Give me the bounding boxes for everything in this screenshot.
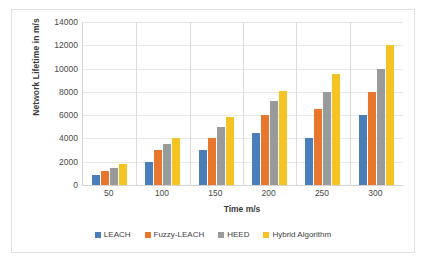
legend-label: Hybrid Algorithm — [272, 230, 331, 239]
bar-heed[interactable] — [323, 92, 331, 185]
bar-leach[interactable] — [92, 175, 100, 185]
bar-fuzzy-leach[interactable] — [154, 150, 162, 185]
bar-heed[interactable] — [377, 69, 385, 185]
legend-label: Fuzzy-LEACH — [154, 230, 205, 239]
bar-group — [350, 22, 403, 185]
legend-item[interactable]: HEED — [218, 230, 249, 239]
x-axis-title: Time m/s — [82, 204, 402, 214]
bar-hybrid-algorithm[interactable] — [332, 74, 340, 185]
bar-hybrid-algorithm[interactable] — [386, 45, 394, 185]
bar-hybrid-algorithm[interactable] — [172, 138, 180, 185]
legend-label: LEACH — [104, 230, 131, 239]
x-axis-tick-labels: 50100150200250300 — [82, 188, 402, 198]
bar-group — [190, 22, 243, 185]
bar-leach[interactable] — [199, 150, 207, 185]
bar-hybrid-algorithm[interactable] — [119, 164, 127, 185]
bar-fuzzy-leach[interactable] — [101, 171, 109, 185]
legend-swatch-icon — [145, 232, 151, 238]
bar-groups — [83, 22, 403, 185]
legend-swatch-icon — [95, 232, 101, 238]
y-axis-tick-label: 0 — [38, 180, 78, 190]
bar-leach[interactable] — [359, 115, 367, 185]
legend-item[interactable]: LEACH — [95, 230, 131, 239]
y-axis-tick-label: 6000 — [38, 110, 78, 120]
bar-leach[interactable] — [145, 162, 153, 185]
y-axis-tick-label: 8000 — [38, 87, 78, 97]
chart-legend: LEACHFuzzy-LEACHHEEDHybrid Algorithm — [12, 230, 414, 239]
bar-group — [136, 22, 189, 185]
y-axis-tick-label: 12000 — [38, 40, 78, 50]
chart-frame: Network Lifetime in m/s 0200040006000800… — [11, 9, 415, 253]
bar-hybrid-algorithm[interactable] — [226, 117, 234, 185]
bar-hybrid-algorithm[interactable] — [279, 91, 287, 185]
x-axis-tick-label: 300 — [349, 188, 402, 198]
bar-group — [83, 22, 136, 185]
bar-heed[interactable] — [217, 127, 225, 185]
bar-heed[interactable] — [270, 101, 278, 185]
legend-swatch-icon — [218, 232, 224, 238]
y-axis-tick-label: 4000 — [38, 133, 78, 143]
bar-heed[interactable] — [110, 168, 118, 185]
x-axis-tick-label: 100 — [135, 188, 188, 198]
y-axis-tick-label: 14000 — [38, 17, 78, 27]
legend-item[interactable]: Fuzzy-LEACH — [145, 230, 205, 239]
legend-item[interactable]: Hybrid Algorithm — [263, 230, 331, 239]
y-axis-tick-label: 10000 — [38, 64, 78, 74]
bar-fuzzy-leach[interactable] — [368, 92, 376, 185]
bar-fuzzy-leach[interactable] — [261, 115, 269, 185]
bar-leach[interactable] — [252, 133, 260, 185]
legend-label: HEED — [227, 230, 249, 239]
x-axis-tick-label: 150 — [189, 188, 242, 198]
x-axis-tick-label: 200 — [242, 188, 295, 198]
bar-group — [243, 22, 296, 185]
bar-heed[interactable] — [163, 144, 171, 185]
y-axis-tick-label: 2000 — [38, 157, 78, 167]
plot-area — [82, 22, 403, 186]
bar-fuzzy-leach[interactable] — [314, 109, 322, 185]
x-axis-tick-label: 50 — [82, 188, 135, 198]
y-axis-tick-labels: 02000400060008000100001200014000 — [38, 22, 78, 185]
bar-leach[interactable] — [305, 138, 313, 185]
legend-swatch-icon — [263, 232, 269, 238]
bar-fuzzy-leach[interactable] — [208, 138, 216, 185]
bar-group — [296, 22, 349, 185]
x-axis-tick-label: 250 — [295, 188, 348, 198]
